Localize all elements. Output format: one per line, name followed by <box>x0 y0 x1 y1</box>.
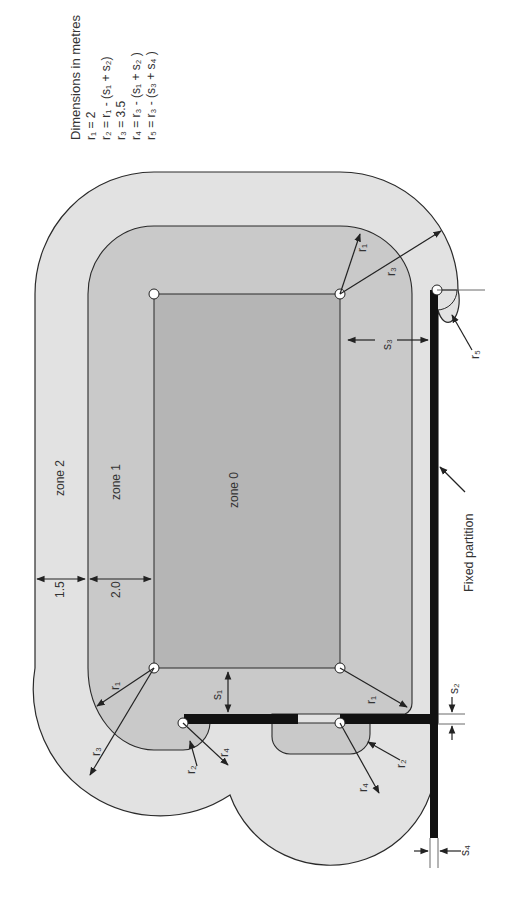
r1-label-bottom-right: r₁ <box>364 696 378 704</box>
r4-label-right: r₄ <box>356 783 370 792</box>
r4-label-left: r₄ <box>217 748 231 757</box>
zone-0-label: zone 0 <box>227 472 241 508</box>
legend-line-3: r₃ = 3.5 <box>114 100 128 140</box>
legend-title: Dimensions in metres <box>68 15 83 140</box>
corner-point-top-left <box>149 289 159 299</box>
s3-label: s₃ <box>380 339 394 350</box>
r3-label-top: r₃ <box>384 267 398 276</box>
zone-2-label: zone 2 <box>53 460 67 496</box>
r2-label-right: r₂ <box>394 759 408 768</box>
legend-line-4: r₄ = r₃ - (s₁ + s₂ ) <box>129 52 143 140</box>
r1-label-bottom-left: r₁ <box>108 682 122 690</box>
r2-label-left: r₂ <box>184 765 198 774</box>
fixed-partition-label: Fixed partition <box>462 513 476 592</box>
zone1-width-label: 2.0 <box>109 581 123 598</box>
r3-label-bottom-left: r₃ <box>89 747 103 756</box>
gate-bar-right <box>340 714 432 724</box>
s4-label: s₄ <box>458 845 472 856</box>
legend-line-2: r₂ = r₁ - (s₁ + s₂) <box>99 57 113 140</box>
fixed-partition-pointer <box>440 467 465 492</box>
fixed-partition <box>430 290 438 838</box>
hazard-zone-diagram: Dimensions in metres r₁ = 2 r₂ = r₁ - (s… <box>0 0 505 906</box>
s1-label: s₁ <box>210 690 224 700</box>
zone-1-label: zone 1 <box>109 464 123 500</box>
legend-line-1: r₁ = 2 <box>84 111 98 140</box>
zone-0-area <box>154 294 340 668</box>
legend-line-5: r₅ = r₃ - (s₃ + s₄ ) <box>144 51 158 140</box>
r5-label: r₅ <box>468 350 482 359</box>
r5-arrow <box>452 315 472 350</box>
r1-label-top: r₁ <box>355 244 369 252</box>
gate-bar-left <box>184 714 298 724</box>
zone2-width-label: 1.5 <box>53 581 67 598</box>
s2-label: s₂ <box>447 683 461 694</box>
